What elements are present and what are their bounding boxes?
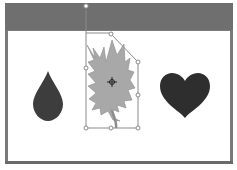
shape-layer (0, 0, 237, 170)
heart-shape-icon[interactable] (160, 73, 210, 118)
handle-bottom (109, 126, 113, 130)
handle-bottom-left (84, 126, 88, 130)
handle-bottom-right (136, 126, 140, 130)
handle-top-right (136, 60, 140, 64)
handle-top (109, 32, 113, 36)
rotate-handle (84, 4, 88, 8)
handle-right (136, 93, 140, 97)
handle-left (84, 66, 88, 70)
droplet-shape-icon[interactable] (33, 71, 63, 121)
